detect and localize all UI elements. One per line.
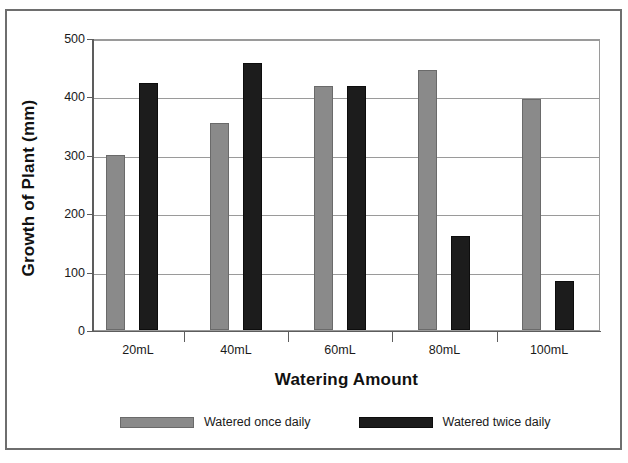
y-tick-mark-0 bbox=[87, 331, 93, 332]
legend-entry-watered-twice-daily: Watered twice daily bbox=[359, 415, 551, 429]
category-tick-2 bbox=[288, 332, 289, 342]
bar-60ml-watered-once-daily bbox=[314, 86, 333, 330]
bar-20ml-watered-twice-daily bbox=[139, 83, 158, 330]
y-tick-mark-500 bbox=[87, 39, 93, 40]
x-axis-line bbox=[92, 331, 601, 332]
legend-label-series-1: Watered twice daily bbox=[443, 415, 551, 429]
category-tick-1 bbox=[184, 332, 185, 342]
bar-40ml-watered-once-daily bbox=[210, 123, 229, 330]
legend-label-series-0: Watered once daily bbox=[204, 415, 311, 429]
bar-20ml-watered-once-daily bbox=[106, 155, 125, 330]
bar-80ml-watered-twice-daily bbox=[451, 236, 470, 330]
bar-40ml-watered-twice-daily bbox=[243, 63, 262, 330]
category-tick-3 bbox=[392, 332, 393, 342]
category-label-80ml: 80mL bbox=[392, 344, 497, 358]
gridline-500 bbox=[94, 40, 599, 41]
legend-entry-watered-once-daily: Watered once daily bbox=[120, 415, 311, 429]
chart-screenshot: 500 400 300 200 100 0 20mL 40mL 60mL 80m… bbox=[0, 0, 628, 463]
legend-swatch-icon-series-0 bbox=[120, 417, 194, 428]
y-tick-label-500: 500 bbox=[39, 33, 85, 46]
bar-60ml-watered-twice-daily bbox=[347, 86, 366, 330]
bar-100ml-watered-once-daily bbox=[522, 99, 541, 330]
category-tick-4 bbox=[497, 332, 498, 342]
y-tick-label-0: 0 bbox=[39, 325, 85, 338]
y-tick-mark-300 bbox=[87, 156, 93, 157]
y-tick-mark-200 bbox=[87, 214, 93, 215]
category-label-60ml: 60mL bbox=[288, 344, 392, 358]
category-label-40ml: 40mL bbox=[184, 344, 288, 358]
category-label-100ml: 100mL bbox=[497, 344, 601, 358]
y-tick-mark-100 bbox=[87, 273, 93, 274]
x-axis-title: Watering Amount bbox=[93, 370, 600, 390]
y-tick-label-300: 300 bbox=[39, 150, 85, 163]
y-tick-label-200: 200 bbox=[39, 208, 85, 221]
plot-area bbox=[93, 39, 600, 331]
bar-100ml-watered-twice-daily bbox=[555, 281, 574, 330]
y-axis-line bbox=[92, 39, 94, 332]
y-axis-tick-labels: 500 400 300 200 100 0 bbox=[33, 0, 85, 463]
bar-80ml-watered-once-daily bbox=[418, 70, 437, 330]
y-tick-label-400: 400 bbox=[39, 91, 85, 104]
category-label-20ml: 20mL bbox=[92, 344, 184, 358]
y-tick-mark-400 bbox=[87, 97, 93, 98]
legend: Watered once daily Watered twice daily bbox=[120, 412, 550, 432]
legend-swatch-icon-series-1 bbox=[359, 417, 433, 428]
y-axis-title: Growth of Plant (mm) bbox=[19, 88, 39, 288]
y-tick-label-100: 100 bbox=[39, 267, 85, 280]
